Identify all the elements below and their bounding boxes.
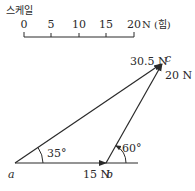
scale-tick-label-20: 20 — [127, 18, 141, 31]
scale-tick-label-10: 10 — [72, 18, 86, 31]
angle-label-35: 35° — [47, 147, 67, 160]
scale-tick-label-5: 5 — [48, 18, 55, 31]
angle-arc-35 — [38, 148, 43, 164]
scale-title: 스케일 — [6, 5, 33, 16]
scale-unit: N (힘) — [142, 19, 171, 30]
scale-tick-label-0: 0 — [21, 18, 28, 31]
angle-label-60: 60° — [122, 142, 142, 155]
magnitude-label-ac: 30.5 N — [130, 55, 168, 68]
vector-diagram: 스케일 0 5 10 15 20 N (힘) 35° 60° 15 N 20 N… — [0, 0, 195, 191]
scale-tick-label-15: 15 — [99, 18, 113, 31]
point-label-b: b — [106, 168, 113, 181]
point-label-a: a — [8, 168, 15, 181]
scale-bar: 스케일 0 5 10 15 20 N (힘) — [6, 5, 171, 37]
point-label-c: c — [165, 52, 171, 65]
magnitude-label-bc: 20 N — [165, 69, 192, 82]
